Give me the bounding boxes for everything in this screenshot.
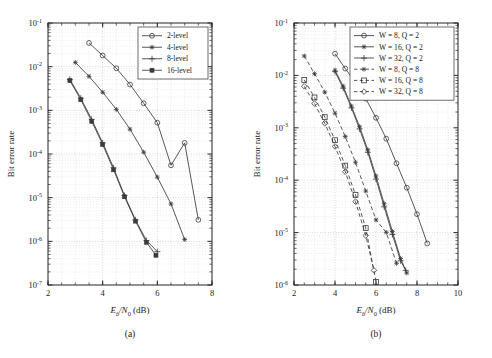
- x-tick-label: 2: [292, 288, 296, 298]
- y-tick-label: 10-6: [29, 236, 43, 246]
- legend-label: W = 16, Q = 2: [379, 43, 423, 52]
- y-tick-label: 10-4: [29, 149, 43, 159]
- x-tick-label: 4: [101, 288, 106, 298]
- legend-label: 2-level: [167, 31, 188, 40]
- x-axis-title-a: Eb/N0 (dB): [109, 305, 149, 317]
- figure-container: 10-110-210-310-410-510-610-72468Eb/N0 (d…: [0, 0, 492, 358]
- legend-label: 8-level: [167, 54, 188, 63]
- legend-label: 4-level: [167, 43, 188, 52]
- y-tick-label: 10-5: [29, 192, 43, 202]
- chart-panel-a: 10-110-210-310-410-510-610-72468Eb/N0 (d…: [0, 0, 246, 358]
- legend-label: W = 8, Q = 8: [379, 65, 419, 74]
- x-tick-label: 10: [454, 288, 463, 298]
- legend-a: 2-level4-level8-level16-level: [138, 27, 208, 79]
- y-tick-label: 10-1: [275, 18, 289, 28]
- chart-panel-b: 10-110-210-310-410-510-6246810Eb/N0 (dB)…: [246, 0, 492, 358]
- y-tick-label: 10-4: [275, 175, 289, 185]
- legend-b: W = 8, Q = 2W = 16, Q = 2W = 32, Q = 2W …: [350, 27, 454, 100]
- x-tick-label: 8: [210, 288, 214, 298]
- y-tick-label: 10-2: [275, 70, 289, 80]
- legend-label: W = 16, Q = 8: [379, 76, 423, 85]
- x-tick-label: 4: [333, 288, 338, 298]
- x-tick-label: 2: [46, 288, 50, 298]
- y-tick-label: 10-3: [29, 105, 43, 115]
- panel-caption-a: (a): [125, 329, 136, 340]
- y-tick-label: 10-7: [29, 280, 43, 290]
- y-tick-label: 10-5: [275, 227, 289, 237]
- x-axis-title-b: Eb/N0 (dB): [355, 305, 395, 317]
- x-tick-label: 6: [374, 288, 378, 298]
- legend-label: W = 32, Q = 2: [379, 54, 423, 63]
- y-tick-label: 10-2: [29, 61, 43, 71]
- x-tick-label: 8: [415, 288, 419, 298]
- chart-svg-a: 10-110-210-310-410-510-610-72468Eb/N0 (d…: [0, 0, 246, 358]
- x-tick-label: 6: [155, 288, 159, 298]
- chart-svg-b: 10-110-210-310-410-510-6246810Eb/N0 (dB)…: [246, 0, 492, 358]
- panel-caption-b: (b): [370, 329, 381, 340]
- y-tick-label: 10-6: [275, 280, 289, 290]
- y-tick-label: 10-3: [275, 122, 289, 132]
- y-tick-label: 10-1: [29, 18, 43, 28]
- y-axis-title-b: Bit error rate: [252, 131, 262, 177]
- legend-label: 16-level: [167, 66, 192, 75]
- y-axis-title-a: Bit error rate: [6, 131, 16, 177]
- legend-label: W = 32, Q = 8: [379, 87, 423, 96]
- legend-label: W = 8, Q = 2: [379, 31, 419, 40]
